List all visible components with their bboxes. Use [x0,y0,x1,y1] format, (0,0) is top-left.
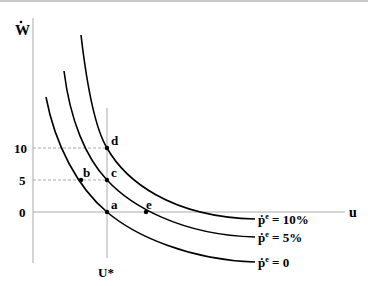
phillips-curve-chart: W u 10 5 0 d c b a e U* ṗe = 10% ṗe = 5%… [0,0,368,286]
tick-0: 0 [19,205,26,220]
ustar-label: U* [98,265,114,280]
legend-0pct: ṗe = 0 [258,255,289,270]
svg-text:ṗe = 10%: ṗe = 10% [258,212,309,227]
label-b: b [83,165,90,180]
tick-10: 10 [14,141,27,156]
point-c [105,178,109,182]
label-e: e [146,197,152,212]
label-d: d [111,133,119,148]
legend-5pct: ṗe = 5% [258,230,302,245]
curve-0pct [46,97,255,262]
svg-text:ṗe = 0: ṗe = 0 [258,255,289,270]
legend-10pct: ṗe = 10% [258,212,309,227]
tick-5: 5 [19,173,26,188]
x-axis-label: u [349,205,357,220]
point-a [105,210,109,214]
label-a: a [111,197,118,212]
point-d [105,146,109,150]
y-axis-dot [20,21,23,24]
svg-text:ṗe = 5%: ṗe = 5% [258,230,302,245]
label-c: c [111,165,117,180]
y-axis-label: W [15,22,30,38]
